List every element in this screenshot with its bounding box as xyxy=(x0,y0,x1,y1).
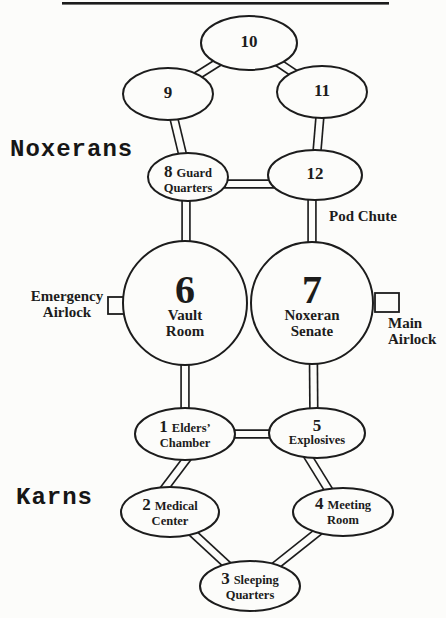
top-rule xyxy=(62,2,389,5)
pod-chute-label: Pod Chute xyxy=(329,209,397,225)
room-1-name-line2: Chamber xyxy=(159,436,210,451)
room-3-number: 3 xyxy=(221,569,230,588)
room-5-label: 5 Explosives xyxy=(289,418,345,448)
room-8-name-line1: Guard xyxy=(177,166,212,180)
room-10-label: 10 xyxy=(241,32,258,52)
room-4-number: 4 xyxy=(315,494,324,513)
room-5-name: Explosives xyxy=(289,433,345,448)
room-8-name-line2: Quarters xyxy=(164,181,213,196)
main-airlock-label: Main Airlock xyxy=(388,316,436,347)
room-3-name-line1: Sleeping xyxy=(234,573,279,587)
room-7-number: 7 xyxy=(285,273,340,307)
main-airlock-line2: Airlock xyxy=(388,332,436,348)
main-airlock-line1: Main xyxy=(388,316,436,332)
room-7-name-line2: Senate xyxy=(285,323,340,339)
room-9-label: 9 xyxy=(164,83,173,103)
room-1-number: 1 xyxy=(159,417,168,436)
room-5-number: 5 xyxy=(289,418,345,433)
room-3-name-line2: Quarters xyxy=(221,588,279,603)
room-4-name-line2: Room xyxy=(315,513,371,528)
room-6-name-line2: Room xyxy=(166,323,204,339)
room-6-name-line1: Vault xyxy=(166,307,204,323)
room-4-name-line1: Meeting xyxy=(327,498,371,512)
emergency-airlock-port xyxy=(108,297,124,314)
station-map: Noxerans Karns Pod Chute Emergency Airlo… xyxy=(0,0,446,618)
emergency-airlock-line1: Emergency xyxy=(31,289,103,305)
faction-label-noxerans: Noxerans xyxy=(10,136,133,163)
room-6-label: 6 Vault Room xyxy=(166,273,204,339)
room-11-label: 11 xyxy=(314,81,330,101)
room-2-name-line1: Medical xyxy=(155,499,198,513)
room-8-number: 8 xyxy=(164,162,173,181)
room-7-name-line1: Noxeran xyxy=(285,307,340,323)
room-4-label: 4Meeting Room xyxy=(315,496,371,528)
room-2-number: 2 xyxy=(142,495,151,514)
faction-label-karns: Karns xyxy=(16,484,93,511)
room-7-label: 7 Noxeran Senate xyxy=(285,273,340,339)
room-8-label: 8Guard Quarters xyxy=(164,164,213,196)
room-3-label: 3Sleeping Quarters xyxy=(221,571,279,603)
room-6-number: 6 xyxy=(166,273,204,307)
main-airlock-port xyxy=(375,293,399,312)
room-2-name-line2: Center xyxy=(142,514,198,529)
emergency-airlock-line2: Airlock xyxy=(31,305,103,321)
room-1-name-line1: Elders’ xyxy=(172,421,211,435)
room-2-label: 2Medical Center xyxy=(142,497,198,529)
room-1-label: 1Elders’ Chamber xyxy=(159,419,210,451)
emergency-airlock-label: Emergency Airlock xyxy=(31,289,103,320)
room-12-label: 12 xyxy=(307,164,324,184)
